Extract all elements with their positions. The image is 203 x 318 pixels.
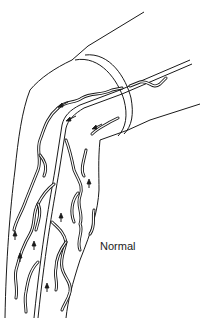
upward-flow-arrow	[59, 213, 63, 222]
upward-flow-arrow	[32, 241, 36, 250]
leg-vein-illustration	[0, 0, 203, 318]
downward-flow-arrow	[66, 116, 76, 121]
veins	[14, 78, 166, 312]
upward-flow-arrow	[87, 179, 91, 188]
upward-flow-arrow	[13, 231, 17, 240]
upward-flow-arrow	[45, 283, 49, 292]
figure-label: Normal	[100, 240, 135, 252]
tourniquet-band	[75, 55, 132, 136]
